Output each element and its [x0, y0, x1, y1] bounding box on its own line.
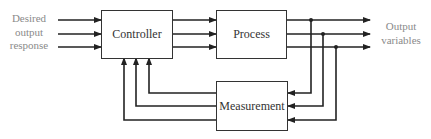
controller-block: Controller	[101, 10, 173, 59]
process-block: Process	[216, 10, 287, 59]
output-label: Output variables	[372, 20, 430, 47]
measurement-block: Measurement	[216, 81, 288, 131]
output-label-line: variables	[372, 34, 430, 48]
input-label-line: output	[4, 26, 54, 40]
output-label-line: Output	[372, 20, 430, 34]
input-label-line: response	[4, 39, 54, 53]
control-system-diagram: Desired output response Controller Proce…	[0, 0, 431, 139]
input-label-line: Desired	[4, 12, 54, 26]
input-label: Desired output response	[4, 12, 54, 53]
